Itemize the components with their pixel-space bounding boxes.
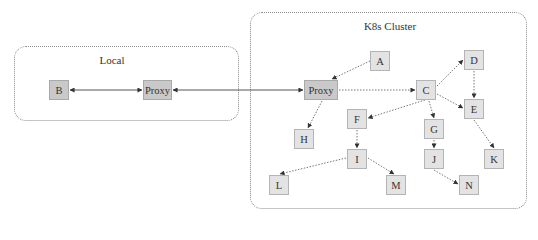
node-e[interactable]: E [464,99,484,119]
node-label: G [430,124,438,135]
node-label: A [376,56,384,67]
node-label: I [355,154,359,165]
edge-j-to-n [434,170,458,184]
edge-e-to-k [474,120,494,148]
edge-a-to-proxyk8s [332,61,370,79]
edge-c-to-d [437,60,463,86]
node-proxyk8s[interactable]: Proxy [304,80,338,100]
node-g[interactable]: G [424,119,444,139]
node-b[interactable]: B [49,80,69,100]
node-label: L [276,180,282,191]
node-h[interactable]: H [294,129,314,149]
node-c[interactable]: C [416,80,436,100]
node-label: D [470,55,478,66]
node-label: F [354,114,360,125]
node-l[interactable]: L [269,175,289,195]
node-label: B [55,85,62,96]
edge-proxyk8s-to-h [308,101,322,128]
node-k[interactable]: K [484,149,504,169]
node-label: M [391,180,400,191]
node-label: C [422,85,429,96]
node-m[interactable]: M [386,175,406,195]
node-label: Proxy [145,85,170,96]
node-n[interactable]: N [459,175,479,195]
node-label: H [300,134,308,145]
edge-c-to-f [368,100,425,118]
node-proxylocal[interactable]: Proxy [143,80,172,100]
node-label: E [471,104,477,115]
node-label: J [432,154,436,165]
edge-i-to-m [368,158,394,174]
node-f[interactable]: F [347,109,367,129]
node-i[interactable]: I [347,149,367,169]
edge-c-to-g [429,101,434,118]
node-a[interactable]: A [370,51,390,71]
node-j[interactable]: J [424,149,444,169]
node-label: Proxy [308,85,333,96]
node-label: K [490,154,498,165]
edge-c-to-e [437,94,463,108]
edge-i-to-l [280,158,346,174]
node-d[interactable]: D [464,50,484,70]
node-label: N [465,180,473,191]
